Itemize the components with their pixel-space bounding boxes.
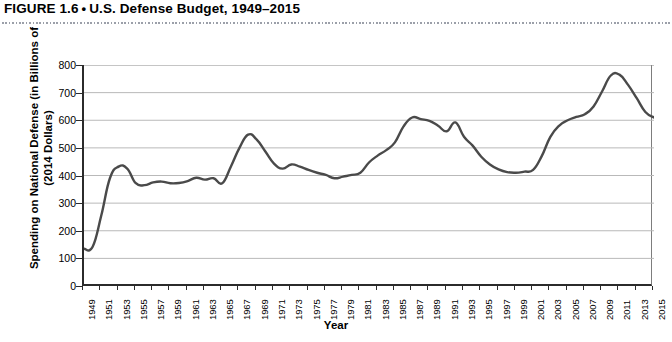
x-tick-mark-1953 (117, 286, 118, 290)
x-tick-mark-1985 (393, 286, 394, 290)
x-tick-label-1977: 1977 (328, 299, 339, 320)
x-tick-label-1989: 1989 (431, 299, 442, 320)
y-tick-label-700: 700 (42, 88, 76, 98)
x-tick-mark-1951 (99, 286, 100, 290)
x-tick-mark-1977 (324, 286, 325, 290)
y-tick-mark-800 (76, 65, 82, 66)
y-tick-mark-600 (76, 120, 82, 121)
x-tick-mark-2001 (531, 286, 532, 290)
x-tick-label-1957: 1957 (155, 299, 166, 320)
x-tick-mark-1987 (410, 286, 411, 290)
x-tick-label-2003: 2003 (552, 299, 563, 320)
y-tick-mark-300 (76, 203, 82, 204)
x-tick-mark-1955 (134, 286, 135, 290)
x-tick-mark-2015 (652, 286, 653, 290)
x-tick-label-1993: 1993 (466, 299, 477, 320)
x-tick-label-1979: 1979 (345, 299, 356, 320)
x-tick-mark-2013 (635, 286, 636, 290)
x-tick-mark-1997 (497, 286, 498, 290)
x-tick-mark-1993 (462, 286, 463, 290)
figure-container: FIGURE 1.6•U.S. Defense Budget, 1949–201… (0, 0, 672, 342)
x-tick-label-1987: 1987 (414, 299, 425, 320)
x-tick-label-1961: 1961 (190, 299, 201, 320)
y-tick-label-400: 400 (42, 171, 76, 181)
x-tick-mark-1969 (255, 286, 256, 290)
x-tick-mark-1961 (186, 286, 187, 290)
x-tick-label-1949: 1949 (86, 299, 97, 320)
x-tick-label-1955: 1955 (138, 299, 149, 320)
x-tick-label-1981: 1981 (362, 299, 373, 320)
x-tick-label-2013: 2013 (639, 299, 650, 320)
x-tick-label-1971: 1971 (276, 299, 287, 320)
y-axis-title-line1: Spending on National Defense (in Billion… (28, 27, 42, 269)
x-tick-label-2015: 2015 (656, 299, 667, 320)
y-tick-label-300: 300 (42, 198, 76, 208)
x-tick-mark-1959 (168, 286, 169, 290)
y-tick-label-0: 0 (42, 281, 76, 291)
x-tick-label-1959: 1959 (172, 299, 183, 320)
y-tick-mark-0 (76, 286, 82, 287)
x-tick-mark-1989 (427, 286, 428, 290)
x-tick-label-1973: 1973 (293, 299, 304, 320)
x-tick-mark-1967 (237, 286, 238, 290)
x-axis-tick-labels: 1949195119531955195719591961196319651967… (82, 288, 652, 322)
x-tick-label-1953: 1953 (121, 299, 132, 320)
x-tick-mark-1963 (203, 286, 204, 290)
y-tick-label-100: 100 (42, 253, 76, 263)
y-tick-label-500: 500 (42, 143, 76, 153)
y-tick-mark-500 (76, 148, 82, 149)
y-tick-mark-200 (76, 231, 82, 232)
x-tick-mark-1973 (289, 286, 290, 290)
x-tick-label-2011: 2011 (621, 300, 632, 320)
x-tick-mark-1949 (82, 286, 83, 290)
figure-title-text: U.S. Defense Budget, 1949–2015 (89, 1, 300, 16)
defense-spending-line (84, 73, 654, 251)
x-tick-mark-1975 (307, 286, 308, 290)
chart-canvas (84, 65, 654, 286)
x-tick-label-1997: 1997 (501, 299, 512, 320)
y-tick-label-800: 800 (42, 60, 76, 70)
x-tick-mark-1957 (151, 286, 152, 290)
x-tick-mark-1965 (220, 286, 221, 290)
x-tick-label-1983: 1983 (380, 299, 391, 320)
x-tick-label-1999: 1999 (518, 299, 529, 320)
x-tick-label-2009: 2009 (604, 299, 615, 320)
y-tick-mark-700 (76, 93, 82, 94)
x-tick-label-1963: 1963 (207, 299, 218, 320)
x-tick-label-2001: 2001 (535, 299, 546, 320)
x-tick-mark-1983 (376, 286, 377, 290)
x-tick-mark-1979 (341, 286, 342, 290)
x-tick-mark-1991 (445, 286, 446, 290)
x-tick-mark-2011 (617, 286, 618, 290)
x-tick-mark-2003 (548, 286, 549, 290)
x-tick-label-1985: 1985 (397, 299, 408, 320)
y-tick-mark-400 (76, 176, 82, 177)
y-axis-tick-labels: 8007006005004003002001000 (42, 65, 76, 286)
y-tick-label-200: 200 (42, 226, 76, 236)
x-tick-mark-1999 (514, 286, 515, 290)
x-tick-label-2005: 2005 (570, 299, 581, 320)
title-divider-rule (2, 22, 670, 24)
x-tick-label-2007: 2007 (587, 299, 598, 320)
x-tick-mark-2009 (600, 286, 601, 290)
y-tick-mark-100 (76, 258, 82, 259)
x-tick-mark-2007 (583, 286, 584, 290)
x-tick-mark-2005 (566, 286, 567, 290)
x-tick-label-1975: 1975 (311, 299, 322, 320)
x-axis-title: Year (0, 319, 672, 331)
x-tick-label-1995: 1995 (483, 299, 494, 320)
x-tick-label-1969: 1969 (259, 299, 270, 320)
plot-area (82, 65, 652, 286)
x-tick-label-1991: 1991 (449, 299, 460, 320)
y-tick-label-600: 600 (42, 115, 76, 125)
x-tick-label-1967: 1967 (241, 299, 252, 320)
x-tick-mark-1995 (479, 286, 480, 290)
x-tick-label-1951: 1951 (103, 299, 114, 320)
x-tick-mark-1981 (358, 286, 359, 290)
title-bullet-separator: • (79, 1, 90, 16)
x-tick-mark-1971 (272, 286, 273, 290)
x-tick-label-1965: 1965 (224, 299, 235, 320)
